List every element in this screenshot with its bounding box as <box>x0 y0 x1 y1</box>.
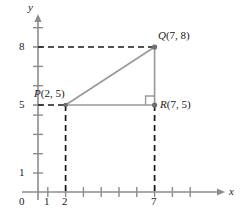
axes-group <box>22 14 225 200</box>
y-axis-arrowhead <box>34 14 41 22</box>
origin-label: 0 <box>19 196 25 207</box>
point-label-q: Q(7, 8) <box>158 30 190 41</box>
y-tick-label-1: 1 <box>19 167 25 178</box>
point-label-p: P(2, 5) <box>34 88 65 99</box>
x-tick-label-2: 2 <box>62 196 68 207</box>
point-q-marker <box>152 44 157 49</box>
x-axis-arrowhead <box>217 188 225 195</box>
point-label-q-coords: (7, 8) <box>166 29 190 41</box>
x-tick-label-1: 1 <box>44 196 50 207</box>
y-tick-label-5: 5 <box>19 99 25 110</box>
point-p-marker <box>63 103 68 108</box>
figure-canvas <box>0 0 244 223</box>
point-label-p-name: P <box>34 87 41 99</box>
x-tick-label-7: 7 <box>151 196 157 207</box>
triangle-pqr <box>66 47 155 105</box>
point-label-q-name: Q <box>158 29 166 41</box>
point-r-marker <box>152 102 157 107</box>
y-tick-label-8: 8 <box>19 41 25 52</box>
guide-lines-group <box>38 47 155 192</box>
coordinate-plane-figure: y x 0 1 2 7 8 5 1 P(2, 5) Q(7, 8) R(7, 5… <box>0 0 244 223</box>
point-label-p-coords: (2, 5) <box>41 87 65 99</box>
point-label-r-name: R <box>160 98 167 110</box>
segment-pq <box>66 47 155 105</box>
point-label-r-coords: (7, 5) <box>167 98 191 110</box>
y-axis-label: y <box>28 2 33 13</box>
point-label-r: R(7, 5) <box>160 99 191 110</box>
x-axis-label: x <box>229 186 234 197</box>
